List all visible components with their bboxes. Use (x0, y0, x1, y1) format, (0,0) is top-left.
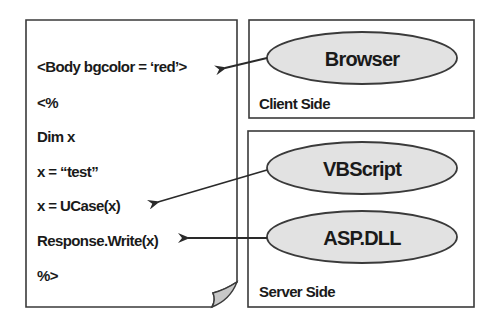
code-line-assign: x = “test” (37, 163, 98, 180)
code-line-ucase: x = UCase(x) (37, 197, 121, 214)
asp-processing-diagram: <Body bgcolor = ‘red’> <% Dim x x = “tes… (0, 0, 499, 336)
code-line-dim: Dim x (37, 128, 76, 145)
code-line-open-script: <% (37, 94, 58, 111)
server-side-label: Server Side (259, 283, 335, 300)
asp-source-document: <Body bgcolor = ‘red’> <% Dim x x = “tes… (26, 20, 237, 307)
server-side-box: VBScript ASP.DLL Server Side (248, 131, 474, 307)
client-side-box: Browser Client Side (249, 20, 474, 118)
code-line-response-write: Response.Write(x) (37, 232, 159, 249)
code-line-close-script: %> (37, 267, 59, 284)
client-side-label: Client Side (259, 95, 330, 112)
asp-dll-label: ASP.DLL (323, 227, 401, 249)
vbscript-label: VBScript (323, 158, 402, 180)
code-line-body-tag: <Body bgcolor = ‘red’> (37, 58, 188, 75)
browser-label: Browser (325, 48, 400, 70)
